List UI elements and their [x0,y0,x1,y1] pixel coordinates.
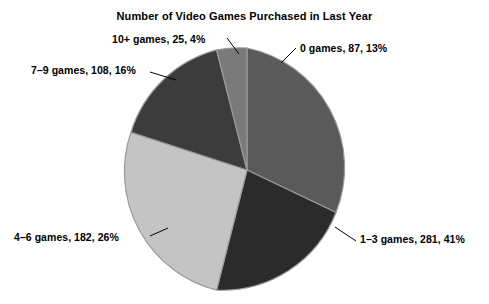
leader-line-0-games [281,48,296,63]
pie-label-7-9-games: 7–9 games, 108, 16% [31,64,136,76]
pie-label-1-3-games: 1–3 games, 281, 41% [360,233,465,245]
pie-chart-graphic [0,0,489,304]
leader-line-1-3 [335,227,356,241]
chart-page: Number of Video Games Purchased in Last … [0,0,489,304]
pie-label-0-games: 0 games, 87, 13% [300,42,387,54]
pie-label-10-plus-games: 10+ games, 25, 4% [112,33,205,45]
pie-label-4-6-games: 4–6 games, 182, 26% [14,231,119,243]
